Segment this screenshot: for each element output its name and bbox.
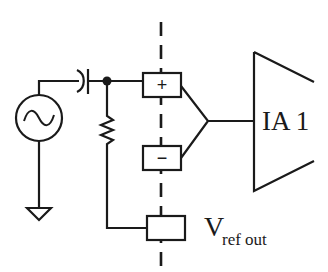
amplifier-label: IA 1 <box>262 106 309 136</box>
vref-label-subscript: ref out <box>222 230 267 249</box>
ac-source-icon <box>16 95 62 141</box>
vref-output-box <box>147 216 185 240</box>
wire-source-to-capacitor <box>39 81 79 95</box>
ground-icon <box>27 208 51 220</box>
minus-sign: − <box>157 148 168 168</box>
circuit-diagram: + − IA 1 V ref out <box>0 0 328 272</box>
wire-inputs-to-amplifier <box>181 86 254 158</box>
plus-input-box: + <box>143 73 181 97</box>
plus-sign: + <box>157 75 168 95</box>
minus-input-box: − <box>143 146 181 170</box>
resistor-icon <box>101 81 147 228</box>
